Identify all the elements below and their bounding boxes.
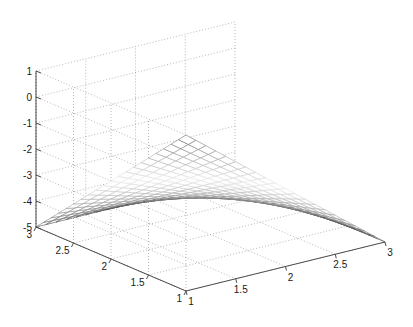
y-tick-label-0: 3: [26, 229, 32, 240]
z-tick-label-0: 1: [26, 66, 32, 77]
z-tick-label-5: -4: [23, 196, 32, 207]
x-tick-label-1: 1.5: [234, 284, 248, 295]
x-tick-label-4: 3: [387, 247, 393, 258]
mesh-surface: [36, 135, 385, 242]
z-tick-label-1: 0: [26, 92, 32, 103]
x-tick-label-3: 2.5: [333, 259, 347, 270]
x-tick-label-2: 2: [288, 272, 294, 283]
y-tick-label-4: 1: [176, 293, 182, 304]
y-tick-label-2: 2: [101, 261, 107, 272]
figure-canvas: 10-1-2-3-4-532.521.5111.522.53: [0, 0, 413, 327]
z-tick-label-3: -2: [23, 144, 32, 155]
y-tick-label-3: 1.5: [131, 277, 145, 288]
z-tick-label-4: -3: [23, 170, 32, 181]
surface-plot-3d: 10-1-2-3-4-532.521.5111.522.53: [0, 0, 413, 327]
y-tick-label-1: 2.5: [56, 245, 70, 256]
x-tick-label-0: 1: [188, 296, 194, 307]
z-tick-label-2: -1: [23, 118, 32, 129]
